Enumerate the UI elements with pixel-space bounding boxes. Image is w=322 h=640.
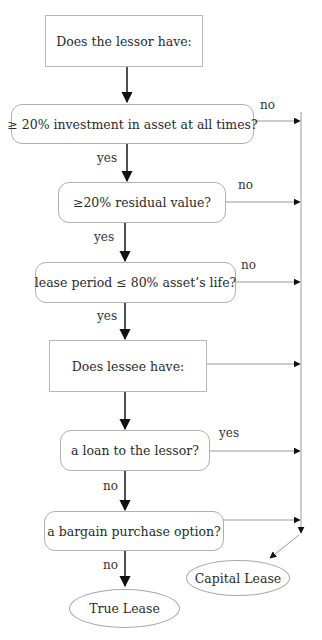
node-capital-lease: Capital Lease bbox=[186, 560, 290, 596]
label-loan-no: no bbox=[103, 479, 118, 493]
node-investment-question: ≥ 20% investment in asset at all times? bbox=[11, 104, 254, 144]
label-period-no: no bbox=[241, 258, 256, 272]
label-investment-no: no bbox=[260, 98, 275, 112]
node-lessee-question: Does lessee have: bbox=[49, 340, 207, 392]
node-bargain-question: a bargain purchase option? bbox=[44, 511, 224, 551]
node-lessor-question: Does the lessor have: bbox=[45, 15, 203, 67]
label-investment-yes: yes bbox=[97, 151, 117, 165]
arrow-to-capital-lease bbox=[270, 535, 299, 558]
node-true-lease: True Lease bbox=[69, 589, 180, 628]
label-residual-no: no bbox=[238, 178, 253, 192]
label-residual-yes: yes bbox=[94, 230, 114, 244]
label-period-yes: yes bbox=[97, 309, 117, 323]
label-loan-yes: yes bbox=[219, 426, 239, 440]
label-bargain-no: no bbox=[103, 558, 118, 572]
node-loan-question: a loan to the lessor? bbox=[60, 430, 210, 471]
node-residual-question: ≥20% residual value? bbox=[58, 182, 226, 223]
node-period-question: lease period ≤ 80% asset’s life? bbox=[35, 262, 236, 303]
